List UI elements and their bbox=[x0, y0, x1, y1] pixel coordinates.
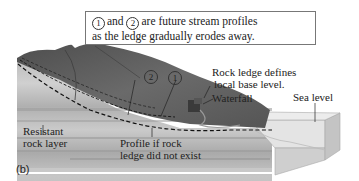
marker-1-label: 1 bbox=[168, 71, 182, 85]
callout-box: 1and 2are future stream profiles as the … bbox=[85, 11, 316, 45]
sea-level-label: Sea level bbox=[293, 92, 333, 103]
profile-label-1: Profile if rock bbox=[120, 138, 182, 149]
waterfall-label: Waterfall bbox=[212, 93, 253, 104]
callout-line-2: as the ledge gradually erodes away. bbox=[92, 30, 309, 43]
rock-ledge-label-2: local base level. bbox=[214, 79, 285, 90]
resistant-rock-label-1: Resistant bbox=[23, 126, 63, 137]
figure-label: (b) bbox=[16, 163, 29, 175]
marker-2-icon: 2 bbox=[126, 17, 139, 30]
callout-line-1: 1and 2are future stream profiles bbox=[92, 15, 309, 30]
rock-ledge-label-1: Rock ledge defines bbox=[212, 67, 296, 78]
profile-label-2: ledge did not exist bbox=[120, 150, 201, 161]
marker-2-label: 2 bbox=[144, 70, 158, 84]
marker-1-icon: 1 bbox=[92, 17, 105, 30]
resistant-rock-label-2: rock layer bbox=[23, 138, 67, 149]
